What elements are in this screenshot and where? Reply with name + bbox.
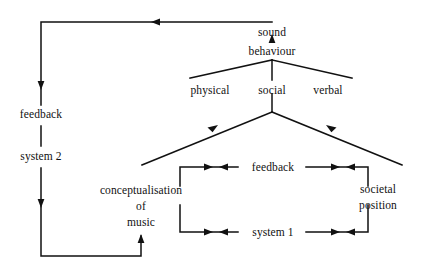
arrowhead-feedback-left-left xyxy=(219,164,228,171)
node-system-1: system 1 xyxy=(239,224,307,240)
diagram-lines xyxy=(0,0,429,276)
edge-behaviour-verbal xyxy=(272,60,352,78)
node-societal-position: societal position xyxy=(344,181,412,213)
arrowhead-system1-right-left xyxy=(346,229,355,236)
node-conceptualisation-line-3: music xyxy=(86,214,196,230)
arrowhead-conceptualisation-to-social xyxy=(208,125,219,132)
arrowhead-feedback-right-left xyxy=(346,164,355,171)
arrowhead-system1-left-right xyxy=(204,229,213,236)
arrowhead-societal-to-social xyxy=(326,125,337,132)
edge-behaviour-physical xyxy=(190,60,272,78)
diagram-canvas: sound behaviour physical social verbal f… xyxy=(0,0,429,276)
node-conceptualisation-line-1: conceptualisation xyxy=(86,182,196,198)
arrowhead-left-column-down-1 xyxy=(38,81,45,90)
node-sound: sound xyxy=(242,24,302,40)
arrowhead-feedback-left-right xyxy=(204,164,213,171)
arrowhead-top-line-left xyxy=(151,19,160,26)
node-physical: physical xyxy=(177,82,243,98)
node-social: social xyxy=(242,82,302,98)
node-system-2: system 2 xyxy=(7,148,75,164)
edge-apex-right xyxy=(272,112,402,165)
node-verbal: verbal xyxy=(300,82,356,98)
node-behaviour: behaviour xyxy=(232,43,312,59)
arrowhead-feedback-right-right xyxy=(331,164,340,171)
arrowhead-into-conceptualisation xyxy=(138,234,145,243)
node-conceptualisation-line-2: of xyxy=(86,198,196,214)
arrowhead-system1-left-left xyxy=(219,229,228,236)
arrowhead-left-column-down-2 xyxy=(38,199,45,208)
arrowhead-system1-right-right xyxy=(331,229,340,236)
node-conceptualisation-of-music: conceptualisation of music xyxy=(86,182,196,230)
node-societal-line-2: position xyxy=(344,197,412,213)
edge-apex-left xyxy=(142,112,272,165)
node-feedback-inner: feedback xyxy=(239,159,307,175)
node-societal-line-1: societal xyxy=(344,181,412,197)
node-feedback-left: feedback xyxy=(7,106,75,122)
